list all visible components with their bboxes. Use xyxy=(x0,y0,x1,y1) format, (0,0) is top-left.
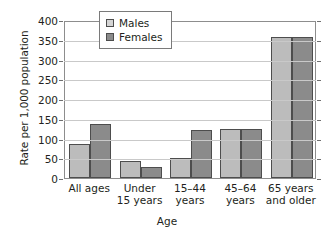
y-axis-tick-label: 100 xyxy=(14,134,58,146)
axis-tick-mark xyxy=(59,100,63,101)
axis-tick-mark xyxy=(317,120,321,121)
axis-tick-mark xyxy=(317,80,321,81)
bar-females xyxy=(191,130,212,178)
x-tick-line-1: 45–64 xyxy=(224,182,256,194)
axis-tick-mark xyxy=(59,41,63,42)
x-axis-tick-label: 65 yearsand older xyxy=(257,182,325,206)
y-axis-tick-label: 150 xyxy=(14,114,58,126)
gridline xyxy=(64,80,316,81)
bar-males xyxy=(69,144,90,178)
x-tick-line-1: 65 years xyxy=(268,182,314,194)
gridline xyxy=(64,61,316,62)
y-axis-tick-label: 300 xyxy=(14,55,58,67)
bar-females xyxy=(292,37,313,178)
legend-swatch-males-icon xyxy=(106,19,114,27)
y-axis-tick-label: 50 xyxy=(14,153,58,165)
axis-tick-mark xyxy=(317,21,321,22)
gridline xyxy=(64,140,316,141)
axis-tick-mark xyxy=(59,120,63,121)
x-tick-line-2: and older xyxy=(257,194,325,206)
axis-tick-mark xyxy=(59,61,63,62)
axis-tick-mark xyxy=(59,179,63,180)
axis-tick-mark xyxy=(59,80,63,81)
axis-tick-mark xyxy=(317,61,321,62)
axis-tick-mark xyxy=(317,140,321,141)
legend-item-males: Males xyxy=(106,16,162,30)
x-tick-line-1: All ages xyxy=(68,182,109,194)
bar-females xyxy=(241,129,262,178)
y-axis-tick-label: 350 xyxy=(14,35,58,47)
bar-males xyxy=(271,37,292,178)
legend-label-females: Females xyxy=(119,32,162,43)
y-axis-tick-label: 200 xyxy=(14,94,58,106)
bar-males xyxy=(170,158,191,178)
axis-tick-mark xyxy=(317,100,321,101)
legend-label-males: Males xyxy=(119,18,149,29)
y-axis-tick-label: 0 xyxy=(14,173,58,185)
gridline xyxy=(64,159,316,160)
axis-tick-mark xyxy=(317,179,321,180)
axis-tick-mark xyxy=(317,159,321,160)
gridline xyxy=(64,100,316,101)
bar-chart-figure: Rate per 1,000 population 40035030025020… xyxy=(0,0,334,242)
y-axis-tick-label: 400 xyxy=(14,15,58,27)
axis-tick-mark xyxy=(59,140,63,141)
legend-swatch-females-icon xyxy=(106,33,114,41)
axis-tick-mark xyxy=(59,159,63,160)
gridline xyxy=(64,120,316,121)
axis-tick-mark xyxy=(59,21,63,22)
x-tick-line-1: 15–44 xyxy=(174,182,206,194)
axis-tick-mark xyxy=(317,41,321,42)
chart-legend: Males Females xyxy=(99,11,172,49)
bar-females xyxy=(90,124,111,178)
y-axis-tick-label: 250 xyxy=(14,74,58,86)
legend-item-females: Females xyxy=(106,30,162,44)
x-axis-title: Age xyxy=(0,215,334,227)
bar-females xyxy=(141,167,162,178)
x-tick-line-1: Under xyxy=(124,182,156,194)
bar-males xyxy=(120,161,141,178)
bar-males xyxy=(220,129,241,178)
